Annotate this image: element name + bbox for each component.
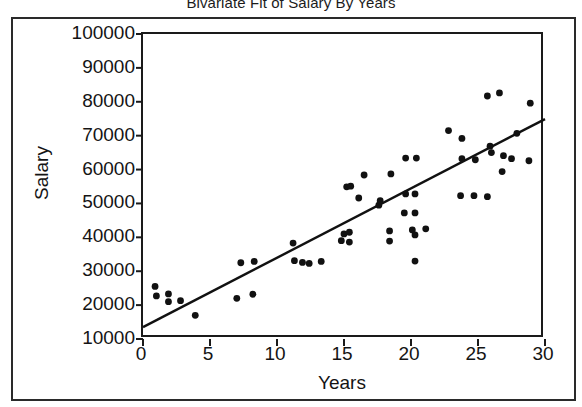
x-tick-label: 10 — [264, 344, 285, 363]
scatter-point — [496, 90, 503, 97]
x-tick-label: 15 — [331, 344, 352, 363]
scatter-point — [346, 229, 353, 236]
scatter-point — [165, 298, 172, 305]
scatter-point — [377, 197, 384, 204]
y-tick-label: 40000 — [82, 226, 135, 245]
scatter-point — [487, 143, 494, 150]
scatter-point — [472, 156, 479, 163]
scatter-point — [299, 259, 306, 266]
y-tick-label: 50000 — [82, 192, 135, 211]
scatter-point — [237, 259, 244, 266]
scatter-point — [471, 192, 478, 199]
scatter-point — [388, 171, 395, 178]
scatter-point — [355, 195, 362, 202]
x-tick-label: 25 — [465, 344, 486, 363]
scatter-point — [153, 293, 160, 300]
scatter-point — [291, 257, 298, 264]
scatter-point — [165, 291, 172, 298]
scatter-point — [306, 260, 313, 267]
scatter-point — [386, 238, 393, 245]
scatter-point — [386, 227, 393, 234]
scatter-point — [527, 100, 534, 107]
scatter-point — [499, 168, 506, 175]
scatter-point — [484, 93, 491, 100]
scatter-point — [413, 155, 420, 162]
y-tick-label: 100000 — [72, 23, 135, 42]
scatter-point — [445, 127, 452, 134]
x-tick-label: 0 — [136, 344, 147, 363]
y-tick-label: 80000 — [82, 91, 135, 110]
y-tick-label: 20000 — [82, 294, 135, 313]
x-tick-label: 5 — [203, 344, 214, 363]
scatter-point — [412, 191, 419, 198]
plot-canvas — [143, 34, 545, 339]
plot-area — [141, 32, 543, 337]
scatter-point — [249, 291, 256, 298]
x-tick-label: 30 — [532, 344, 553, 363]
x-axis-title: Years — [141, 372, 543, 394]
scatter-point — [290, 240, 297, 247]
x-axis-tick-labels: 051015202530 — [141, 344, 543, 368]
y-tick-label: 90000 — [82, 57, 135, 76]
scatter-point — [402, 155, 409, 162]
scatter-point — [338, 237, 345, 244]
chart-title: Bivariate Fit of Salary By Years — [0, 0, 582, 11]
scatter-point — [192, 312, 199, 319]
scatter-point — [422, 225, 429, 232]
scatter-point — [526, 157, 533, 164]
scatter-point — [318, 258, 325, 265]
scatter-point — [457, 192, 464, 199]
scatter-point — [347, 183, 354, 190]
scatter-point — [152, 283, 159, 290]
scatter-point — [488, 149, 495, 156]
scatter-point — [346, 239, 353, 246]
scatter-point — [361, 172, 368, 179]
regression-fit-line — [143, 119, 545, 327]
scatter-point — [459, 135, 466, 142]
y-tick-label: 10000 — [82, 328, 135, 347]
scatter-point — [412, 258, 419, 265]
scatter-point — [412, 210, 419, 217]
chart-figure: Bivariate Fit of Salary By Years 1000020… — [0, 0, 582, 407]
y-tick-label: 60000 — [82, 159, 135, 178]
scatter-point — [513, 130, 520, 137]
scatter-point — [177, 297, 184, 304]
scatter-point — [500, 152, 507, 159]
scatter-point — [508, 155, 515, 162]
scatter-point — [459, 155, 466, 162]
scatter-point — [251, 258, 258, 265]
scatter-point — [402, 191, 409, 198]
scatter-point — [412, 232, 419, 239]
y-tick-label: 30000 — [82, 260, 135, 279]
scatter-point — [484, 193, 491, 200]
scatter-point — [233, 295, 240, 302]
x-tick-label: 20 — [398, 344, 419, 363]
scatter-point — [401, 210, 408, 217]
y-axis-title: Salary — [31, 113, 53, 233]
y-tick-label: 70000 — [82, 125, 135, 144]
scatter-points-group — [152, 90, 534, 319]
